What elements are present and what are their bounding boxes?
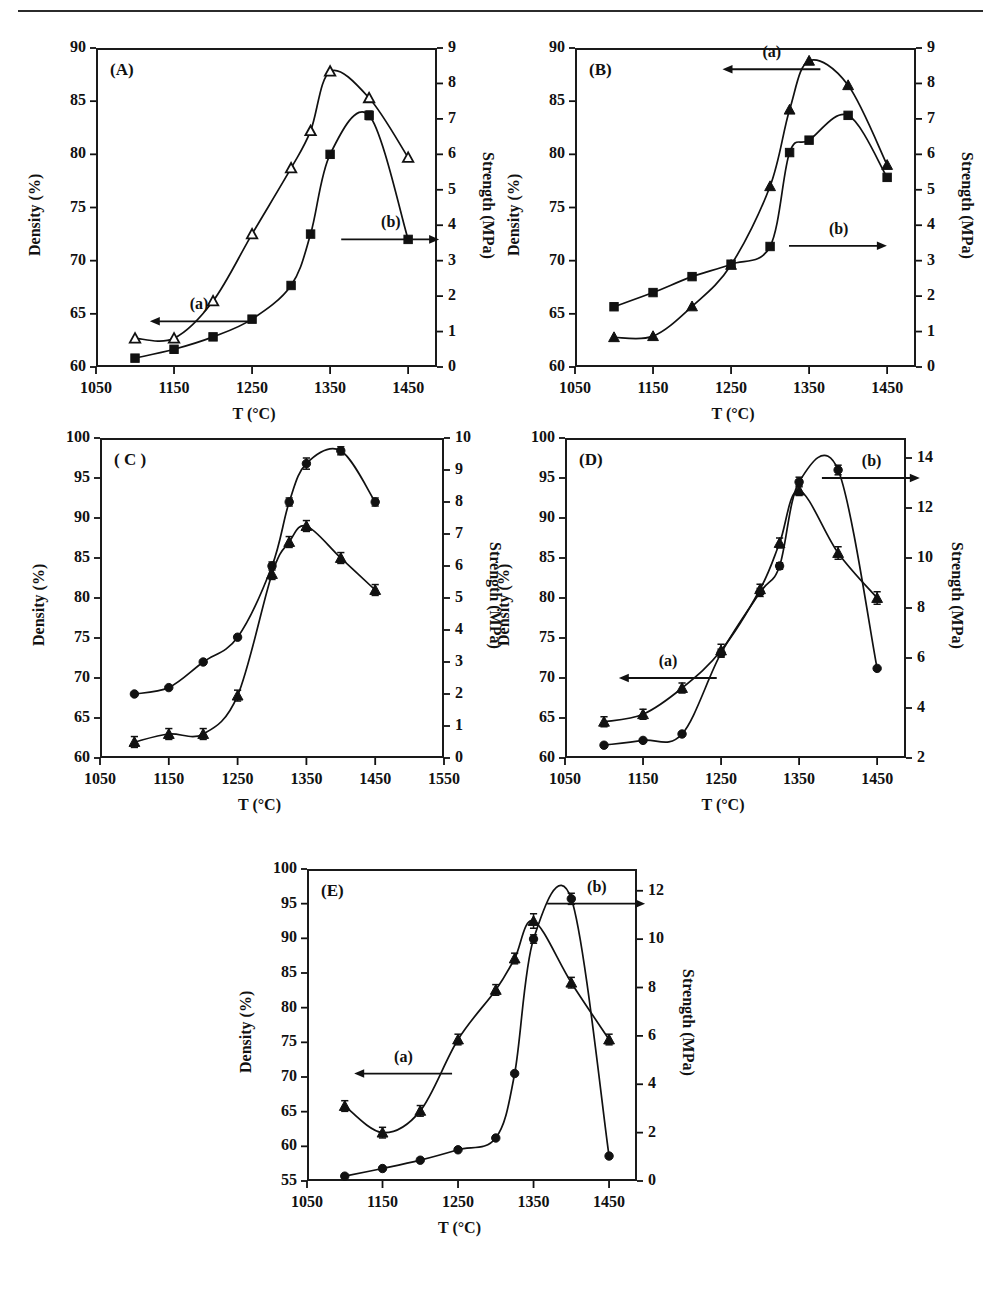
annotation-label-a: (a)	[659, 652, 678, 670]
y2-axis-tick-label: 0	[448, 357, 482, 375]
x-axis-tick-label: 1450	[852, 379, 922, 397]
y-axis-tick-label: 60	[46, 748, 90, 766]
y-axis-tick-label: 85	[521, 91, 565, 109]
x-axis-tick-label: 1450	[373, 379, 443, 397]
x-axis-tick-label: 1350	[295, 379, 365, 397]
y2-axis-tick-label: 0	[455, 748, 489, 766]
y2-axis-tick-label: 4	[648, 1074, 682, 1092]
x-axis-title: T (°C)	[712, 405, 755, 423]
y2-axis-tick-label: 2	[927, 286, 961, 304]
y-axis-tick-label: 60	[42, 357, 86, 375]
panel-letter-label: (D)	[579, 450, 603, 470]
y2-axis-tick-label: 10	[455, 428, 489, 446]
x-axis-title: T (°C)	[438, 1219, 481, 1237]
y2-axis-title: Strength (MPa)	[948, 542, 966, 649]
y2-axis-tick-label: 1	[927, 322, 961, 340]
y2-axis-tick-label: 2	[648, 1123, 682, 1141]
y-axis-tick-label: 85	[253, 963, 297, 981]
x-axis-tick-label: 1350	[499, 1193, 569, 1211]
y-axis-title: Density (%)	[26, 173, 44, 255]
annotation-label-a: (a)	[394, 1048, 413, 1066]
annotation-label-b: (b)	[587, 878, 607, 896]
y-axis-tick-label: 70	[511, 668, 555, 686]
y-axis-tick-label: 65	[511, 708, 555, 726]
plot-frame-b	[575, 48, 916, 367]
y2-axis-tick-label: 4	[917, 698, 951, 716]
y2-axis-tick-label: 2	[455, 684, 489, 702]
y2-axis-tick-label: 5	[455, 588, 489, 606]
y2-axis-tick-label: 3	[448, 251, 482, 269]
y-axis-tick-label: 75	[253, 1032, 297, 1050]
plot-frame-a	[96, 48, 437, 367]
x-axis-tick-label: 1150	[618, 379, 688, 397]
y2-axis-title: Strength (MPa)	[958, 152, 976, 259]
x-axis-tick-label: 1150	[134, 770, 204, 788]
x-axis-tick-label: 1050	[61, 379, 131, 397]
y2-axis-tick-label: 10	[917, 548, 951, 566]
y-axis-tick-label: 100	[511, 428, 555, 446]
y2-axis-tick-label: 6	[917, 648, 951, 666]
y2-axis-tick-label: 8	[927, 73, 961, 91]
y-axis-tick-label: 80	[511, 588, 555, 606]
y-axis-tick-label: 70	[46, 668, 90, 686]
y-axis-tick-label: 95	[253, 894, 297, 912]
y2-axis-title: Strength (MPa)	[479, 152, 497, 259]
x-axis-tick-label: 1050	[530, 770, 600, 788]
y2-axis-tick-label: 1	[455, 716, 489, 734]
x-axis-title: T (°C)	[702, 796, 745, 814]
y2-axis-tick-label: 8	[448, 73, 482, 91]
page-top-rule	[18, 10, 983, 12]
x-axis-tick-label: 1450	[842, 770, 912, 788]
y-axis-tick-label: 70	[42, 251, 86, 269]
y-axis-title: Density (%)	[505, 173, 523, 255]
y2-axis-title: Strength (MPa)	[679, 969, 697, 1076]
y-axis-tick-label: 95	[46, 468, 90, 486]
x-axis-tick-label: 1250	[423, 1193, 493, 1211]
y2-axis-tick-label: 4	[448, 215, 482, 233]
x-axis-tick-label: 1350	[271, 770, 341, 788]
y-axis-tick-label: 80	[46, 588, 90, 606]
y-axis-tick-label: 100	[253, 859, 297, 877]
y2-axis-tick-label: 9	[448, 38, 482, 56]
y-axis-tick-label: 85	[42, 91, 86, 109]
y-axis-tick-label: 60	[521, 357, 565, 375]
y-axis-tick-label: 75	[521, 198, 565, 216]
x-axis-tick-label: 1050	[540, 379, 610, 397]
x-axis-tick-label: 1250	[696, 379, 766, 397]
y2-axis-tick-label: 0	[648, 1171, 682, 1189]
y2-axis-tick-label: 2	[917, 748, 951, 766]
y-axis-tick-label: 75	[42, 198, 86, 216]
y2-axis-tick-label: 3	[455, 652, 489, 670]
y2-axis-tick-label: 7	[455, 524, 489, 542]
y-axis-tick-label: 85	[511, 548, 555, 566]
y-axis-title: Density (%)	[30, 564, 48, 646]
y2-axis-tick-label: 7	[927, 109, 961, 127]
y2-axis-tick-label: 0	[927, 357, 961, 375]
panel-letter-label: ( C )	[114, 450, 146, 470]
y2-axis-tick-label: 6	[927, 144, 961, 162]
y2-axis-tick-label: 14	[917, 448, 951, 466]
x-axis-tick-label: 1450	[340, 770, 410, 788]
y2-axis-tick-label: 2	[448, 286, 482, 304]
y-axis-tick-label: 80	[521, 144, 565, 162]
y-axis-tick-label: 55	[253, 1171, 297, 1189]
y2-axis-tick-label: 6	[648, 1026, 682, 1044]
panel-letter-label: (B)	[589, 60, 612, 80]
y2-axis-tick-label: 12	[917, 498, 951, 516]
y-axis-tick-label: 70	[253, 1067, 297, 1085]
y-axis-tick-label: 95	[511, 468, 555, 486]
plot-frame-e	[307, 869, 637, 1181]
y2-axis-tick-label: 8	[917, 598, 951, 616]
y2-axis-tick-label: 6	[448, 144, 482, 162]
y-axis-tick-label: 75	[46, 628, 90, 646]
x-axis-tick-label: 1250	[686, 770, 756, 788]
y2-axis-tick-label: 10	[648, 929, 682, 947]
x-axis-tick-label: 1350	[764, 770, 834, 788]
y-axis-tick-label: 90	[511, 508, 555, 526]
x-axis-title: T (°C)	[233, 405, 276, 423]
y2-axis-tick-label: 6	[455, 556, 489, 574]
y-axis-tick-label: 60	[253, 1136, 297, 1154]
y-axis-tick-label: 65	[521, 304, 565, 322]
y-axis-tick-label: 100	[46, 428, 90, 446]
y2-axis-tick-label: 3	[927, 251, 961, 269]
